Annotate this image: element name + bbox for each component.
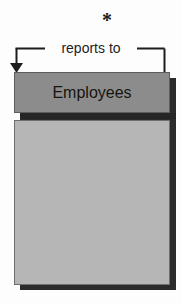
entity-name-label: Employees — [14, 72, 170, 113]
cardinality-asterisk-marker: * — [98, 11, 116, 29]
relationship-label: reports to — [45, 37, 137, 59]
erd-canvas: * reports to Employees — [0, 0, 182, 303]
entity-header-divider — [20, 113, 176, 119]
entity-employees[interactable]: Employees — [14, 72, 170, 285]
entity-attribute-list — [14, 120, 170, 285]
